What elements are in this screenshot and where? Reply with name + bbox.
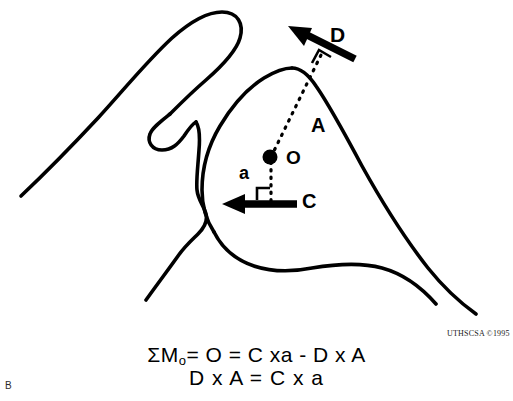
formula-line-balance: D x A = C x a xyxy=(0,367,513,390)
center-of-rotation-point xyxy=(263,150,278,165)
figure-panel: D A O a C UTHSCSA ©1995 ΣMo= O = C xa - … xyxy=(0,0,513,401)
right-angle-marker-C xyxy=(257,188,270,200)
coracoid-hook xyxy=(149,114,196,150)
panel-label: B xyxy=(5,380,12,391)
formula-line-sum-moments: ΣMo= O = C xa - D x A xyxy=(0,344,513,367)
copyright-notice: UTHSCSA ©1995 xyxy=(447,329,510,338)
force-label-C: C xyxy=(302,191,316,211)
force-vector-C-arrow xyxy=(222,194,297,214)
acromion-upper-edge xyxy=(21,12,241,196)
formula-subscript-o: o xyxy=(179,353,187,368)
moment-arm-label-a: a xyxy=(239,164,249,182)
formula-line1-remainder: = O = C xa - D x A xyxy=(186,343,365,366)
moment-arm-label-A: A xyxy=(311,115,325,135)
center-of-rotation-label-O: O xyxy=(286,148,301,167)
force-label-D: D xyxy=(330,24,345,45)
humeral-shaft-right-edge xyxy=(292,68,476,314)
equilibrium-formulas: ΣMo= O = C xa - D x A D x A = C x a xyxy=(0,344,513,389)
humeral-head-inferior-border xyxy=(214,232,436,304)
formula-sigma-m: ΣM xyxy=(147,343,178,366)
scapula-humerus-diagram xyxy=(0,0,513,401)
